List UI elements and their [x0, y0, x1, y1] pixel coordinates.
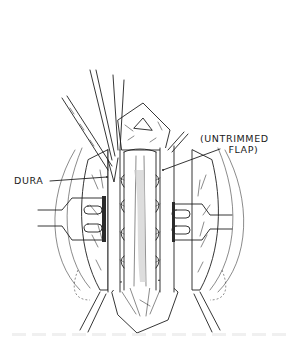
retractor-left: [38, 196, 106, 242]
retractor-right: [172, 202, 232, 242]
cranial-tissue: [118, 103, 170, 150]
leader-line-dura: [50, 177, 107, 181]
spinal-cord: [120, 149, 160, 290]
faint-caption-remnant: [12, 333, 287, 336]
label-dura: DURA: [14, 175, 43, 186]
incision-dash-right: [210, 270, 226, 300]
leader-dot-flap: [162, 169, 164, 171]
leader-dot-dura: [106, 176, 108, 178]
label-untrimmed-flap: (UNTRIMMED FLAP): [200, 133, 269, 155]
untrimmed-flap: [160, 146, 174, 292]
label-flap-line1: (UNTRIMMED: [200, 133, 269, 144]
dura-left-edge: [108, 150, 120, 292]
label-flap-line2: FLAP): [200, 144, 269, 155]
muscle-right: [192, 150, 218, 290]
surgical-illustration: [0, 0, 299, 343]
